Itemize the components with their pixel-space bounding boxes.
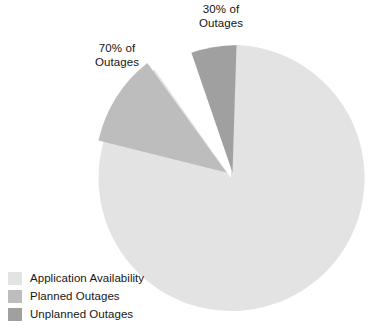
callout-unplanned-line-2: Outages bbox=[166, 16, 276, 30]
callout-planned-outages: 70% of Outages bbox=[62, 41, 172, 69]
chart-legend: Application Availability Planned Outages… bbox=[8, 269, 208, 323]
callout-planned-line-2: Outages bbox=[62, 55, 172, 69]
callout-unplanned-outages: 30% of Outages bbox=[166, 2, 276, 30]
legend-item-planned-outages: Planned Outages bbox=[8, 287, 208, 305]
legend-swatch-icon bbox=[8, 272, 22, 285]
legend-label: Application Availability bbox=[30, 272, 144, 285]
legend-label: Unplanned Outages bbox=[30, 308, 133, 321]
legend-item-unplanned-outages: Unplanned Outages bbox=[8, 305, 208, 323]
legend-label: Planned Outages bbox=[30, 290, 120, 303]
legend-item-application-availability: Application Availability bbox=[8, 269, 208, 287]
callout-planned-line-1: 70% of bbox=[99, 42, 135, 54]
legend-swatch-icon bbox=[8, 308, 22, 321]
pie-chart-figure: 30% of Outages 70% of Outages Applicatio… bbox=[0, 0, 373, 326]
callout-unplanned-line-1: 30% of bbox=[203, 3, 239, 15]
legend-swatch-icon bbox=[8, 290, 22, 303]
